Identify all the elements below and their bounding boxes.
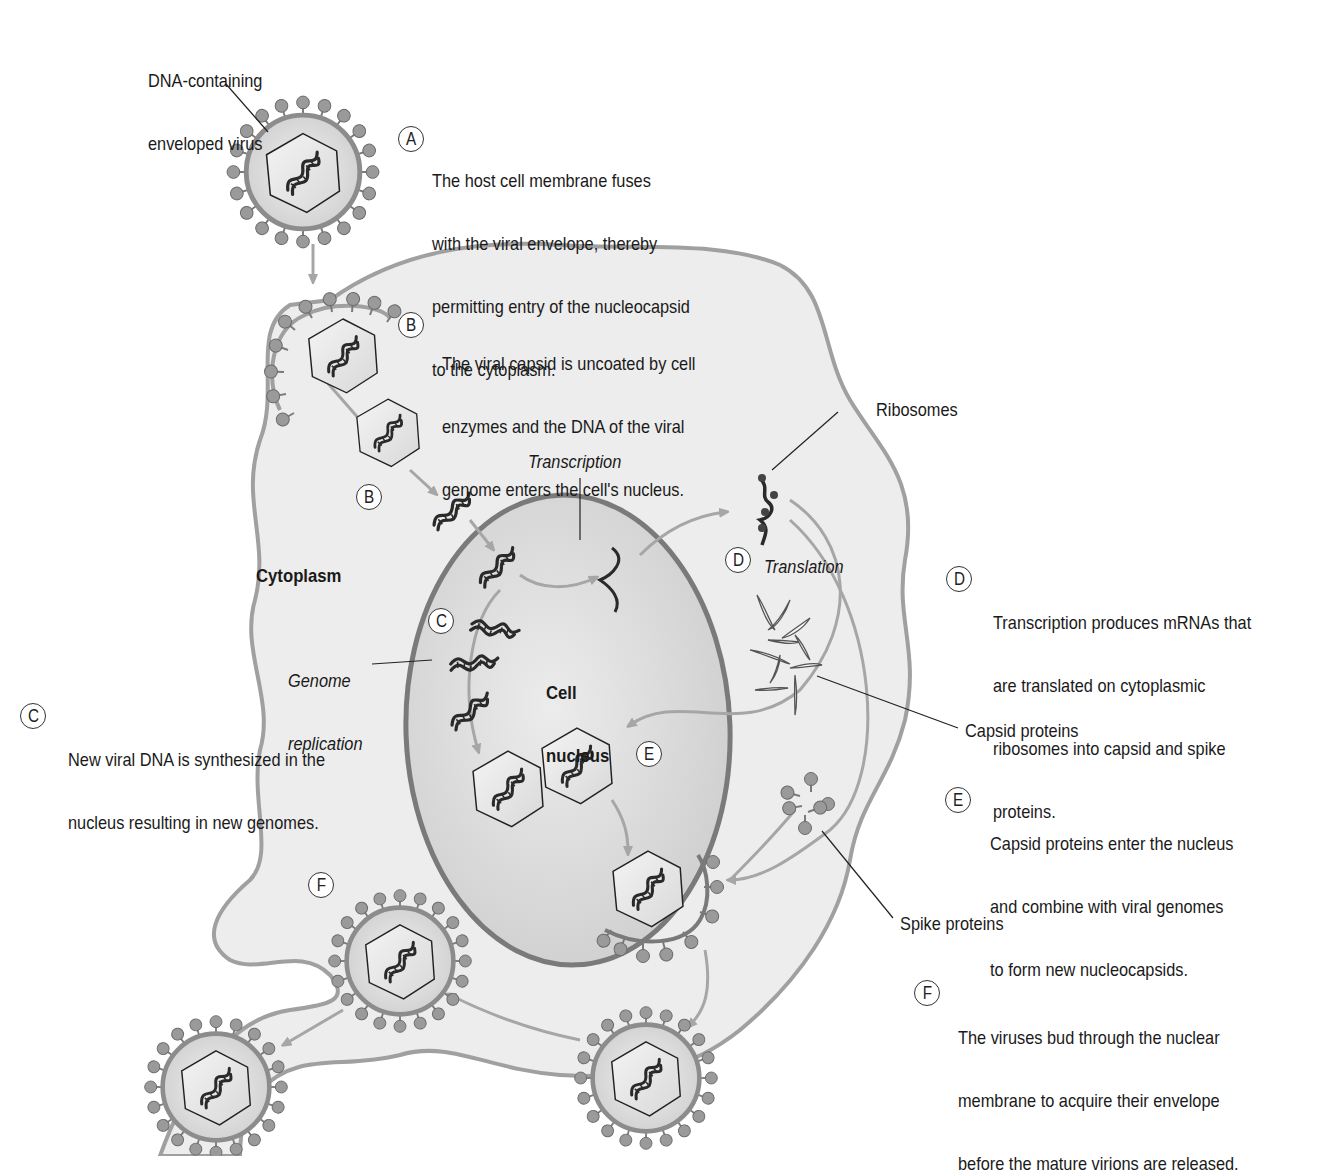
- step-e-line: to form new nucleocapsids.: [990, 959, 1233, 980]
- step-c-line: New viral DNA is synthesized in the: [68, 749, 325, 770]
- step-d-line: ribosomes into capsid and spike: [993, 738, 1251, 759]
- spike-proteins-label: Spike proteins: [900, 913, 1004, 934]
- genome-replication-line: Genome: [288, 670, 362, 691]
- step-e-line: Capsid proteins enter the nucleus: [990, 833, 1233, 854]
- step-b-line: enzymes and the DNA of the viral: [442, 416, 695, 437]
- virus-label-line-1: DNA-containing: [148, 70, 262, 91]
- virus-label: DNA-containing enveloped virus: [148, 28, 262, 175]
- cytoplasm-label: Cytoplasm: [256, 565, 341, 586]
- cell-nucleus-line: nucleus: [546, 745, 609, 766]
- step-f-description: The viruses bud through the nuclear memb…: [958, 985, 1239, 1174]
- step-d-line: Transcription produces mRNAs that: [993, 612, 1251, 633]
- step-badge-d: D: [946, 566, 972, 592]
- ribosomes-label: Ribosomes: [876, 399, 958, 420]
- step-f-line: membrane to acquire their envelope: [958, 1090, 1239, 1111]
- step-e-description: Capsid proteins enter the nucleus and co…: [990, 791, 1233, 1001]
- step-b-line: genome enters the cell's nucleus.: [442, 479, 695, 500]
- capsid-proteins-label: Capsid proteins: [965, 720, 1079, 741]
- marker-e: E: [636, 741, 662, 767]
- marker-d: D: [725, 547, 751, 573]
- virus-label-line-2: enveloped virus: [148, 133, 262, 154]
- marker-c: C: [428, 608, 454, 634]
- step-b-description: The viral capsid is uncoated by cell enz…: [442, 311, 695, 521]
- step-f-line: before the mature virions are released.: [958, 1153, 1239, 1174]
- transcription-label: Transcription: [528, 451, 621, 472]
- step-d-line: are translated on cytoplasmic: [993, 675, 1251, 696]
- step-b-line: The viral capsid is uncoated by cell: [442, 353, 695, 374]
- step-a-line: with the viral envelope, thereby: [432, 233, 690, 254]
- step-e-line: and combine with viral genomes: [990, 896, 1233, 917]
- step-badge-b: B: [398, 312, 424, 338]
- step-f-line: The viruses bud through the nuclear: [958, 1027, 1239, 1048]
- step-a-line: The host cell membrane fuses: [432, 170, 690, 191]
- step-c-description: New viral DNA is synthesized in the nucl…: [68, 707, 325, 854]
- translation-label: Translation: [764, 556, 844, 577]
- step-badge-a: A: [398, 126, 424, 152]
- step-badge-e: E: [945, 787, 971, 813]
- step-c-line: nucleus resulting in new genomes.: [68, 812, 325, 833]
- marker-f: F: [308, 872, 334, 898]
- step-badge-c: C: [20, 703, 46, 729]
- cell-nucleus-label: Cell nucleus: [546, 640, 609, 787]
- step-badge-f: F: [914, 980, 940, 1006]
- cell-nucleus-line: Cell: [546, 682, 609, 703]
- marker-b: B: [356, 484, 382, 510]
